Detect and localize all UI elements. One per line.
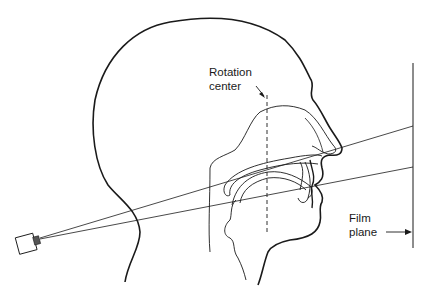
- x-ray-source: [15, 232, 42, 254]
- rotation-center-label-line2: center: [209, 79, 252, 93]
- palate-end: [224, 185, 230, 196]
- head-outline: [93, 18, 342, 285]
- rotation-center-label-line1: Rotation: [209, 65, 252, 79]
- film-plane-label-line1: Film: [349, 211, 377, 225]
- lower-incisor: [298, 162, 310, 203]
- film-plane-label-line2: plane: [349, 225, 377, 239]
- film-plane-label: Film plane: [349, 211, 377, 239]
- pharynx-outline: [225, 200, 246, 280]
- radiography-diagram: [0, 0, 427, 300]
- hard-palate: [225, 155, 322, 195]
- rotation-center-arrowhead: [259, 92, 265, 98]
- rotation-center-label: Rotation center: [209, 65, 252, 93]
- film-plane-arrowhead: [405, 229, 412, 235]
